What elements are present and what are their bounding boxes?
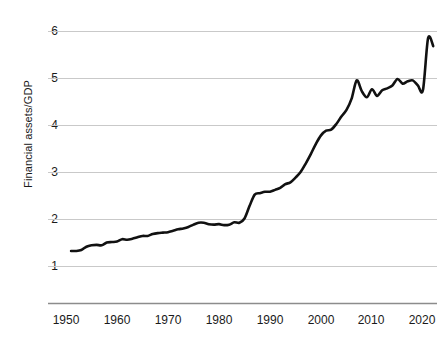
x-tick-1990: 1990 bbox=[257, 313, 284, 327]
x-tick-1960: 1960 bbox=[104, 313, 131, 327]
x-tick-2020: 2020 bbox=[409, 313, 436, 327]
x-axis-tick-labels: 1950 1960 1970 1980 1990 2000 2010 2020 bbox=[0, 0, 444, 355]
x-tick-1970: 1970 bbox=[155, 313, 182, 327]
chart-container: Financial assets/GDP 6 5 4 3 2 1 1950 19… bbox=[0, 0, 444, 355]
x-tick-2010: 2010 bbox=[358, 313, 385, 327]
x-tick-2000: 2000 bbox=[308, 313, 335, 327]
x-tick-1980: 1980 bbox=[206, 313, 233, 327]
x-tick-1950: 1950 bbox=[53, 313, 80, 327]
